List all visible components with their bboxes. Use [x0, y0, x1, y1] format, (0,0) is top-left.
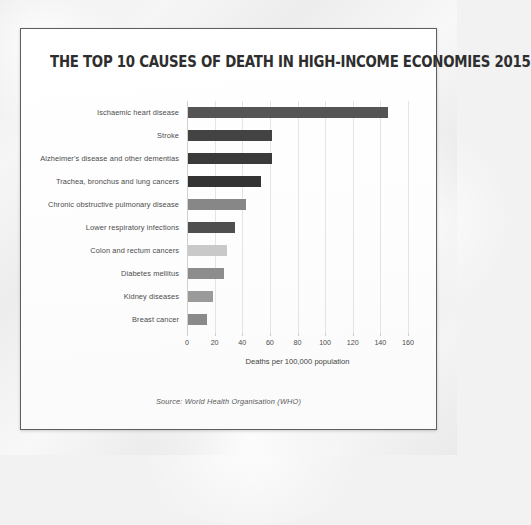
category-label: Kidney diseases [19, 292, 179, 301]
tick-mark [298, 333, 299, 336]
value-axis: 020406080100120140160 [187, 333, 408, 353]
tick-mark [187, 333, 188, 336]
bar [188, 245, 227, 256]
tick-mark [215, 333, 216, 336]
bar [188, 130, 272, 141]
bar [188, 199, 246, 210]
category-label: Diabetes mellitus [19, 269, 179, 278]
tick-mark [380, 333, 381, 336]
bar [188, 291, 213, 302]
chart-card: THE TOP 10 CAUSES OF DEATH IN HIGH-INCOM… [20, 28, 437, 430]
tick-mark [325, 333, 326, 336]
tick-mark [242, 333, 243, 336]
tick-label: 100 [319, 338, 331, 347]
tick-mark [353, 333, 354, 336]
gridline [380, 101, 381, 333]
tick-label: 80 [294, 338, 302, 347]
category-label: Alzheimer's disease and other dementias [19, 154, 179, 163]
axis-caption: Deaths per 100,000 population [187, 357, 408, 366]
bar [188, 107, 388, 118]
gridline [408, 101, 409, 333]
category-axis-labels: Ischaemic heart diseaseStrokeAlzheimer's… [21, 101, 183, 333]
tick-label: 120 [347, 338, 359, 347]
category-label: Ischaemic heart disease [19, 108, 179, 117]
tick-label: 140 [374, 338, 386, 347]
category-label: Chronic obstructive pulmonary disease [19, 200, 179, 209]
gridline [298, 101, 299, 333]
category-label: Colon and rectum cancers [19, 246, 179, 255]
category-label: Breast cancer [19, 315, 179, 324]
tick-label: 160 [402, 338, 414, 347]
tick-label: 40 [238, 338, 246, 347]
bar [188, 222, 235, 233]
tick-label: 20 [211, 338, 219, 347]
gridline [325, 101, 326, 333]
category-label: Lower respiratory infections [19, 223, 179, 232]
gridline [353, 101, 354, 333]
bar-plot-area [187, 101, 408, 333]
category-label: Trachea, bronchus and lung cancers [19, 177, 179, 186]
bar [188, 176, 261, 187]
bar [188, 268, 224, 279]
tick-mark [270, 333, 271, 336]
source-note: Source: World Health Organisation (WHO) [21, 397, 436, 406]
tick-label: 0 [185, 338, 189, 347]
category-label: Stroke [19, 131, 179, 140]
tick-label: 60 [266, 338, 274, 347]
page-title: THE TOP 10 CAUSES OF DEATH IN HIGH-INCOM… [50, 53, 407, 71]
bar [188, 153, 272, 164]
chart-plot-wrapper: Ischaemic heart diseaseStrokeAlzheimer's… [21, 101, 438, 351]
tick-mark [408, 333, 409, 336]
bar [188, 314, 207, 325]
chart-card-surface: THE TOP 10 CAUSES OF DEATH IN HIGH-INCOM… [21, 29, 436, 429]
